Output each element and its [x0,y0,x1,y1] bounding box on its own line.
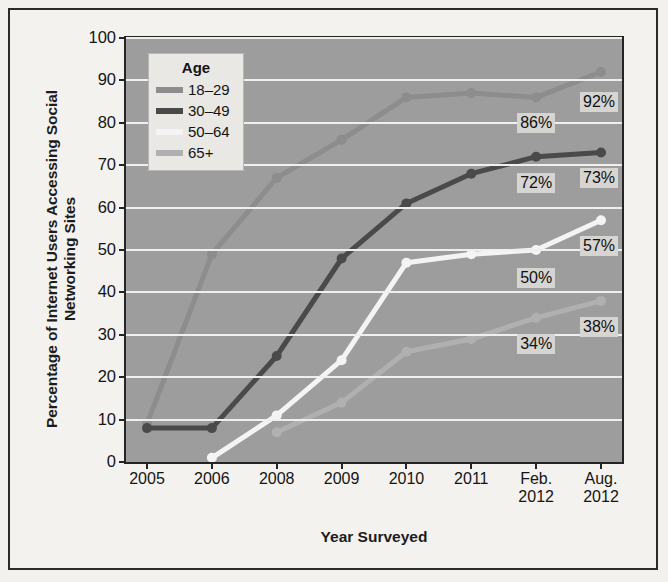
data-label: 34% [517,334,555,354]
x-axis-title: Year Surveyed [124,528,624,546]
y-tick-mark [119,37,126,39]
data-point-marker [272,351,282,361]
x-tick-label-line: Aug. [556,470,646,488]
y-tick-mark [119,122,126,124]
x-tick-label-line: 2012 [556,488,646,506]
legend-label: 50–64 [188,123,230,140]
data-point-marker [531,92,541,102]
data-label: 72% [517,173,555,193]
series-line [147,153,601,429]
data-point-marker [466,169,476,179]
x-tick-mark [146,462,148,469]
legend: Age 18–2930–4950–6465+ [148,53,244,171]
y-tick-label: 20 [70,367,116,386]
legend-item-18-29: 18–29 [156,79,236,100]
legend-swatch [156,87,183,93]
y-tick-label: 30 [70,325,116,344]
gridline [126,249,622,251]
data-point-marker [337,254,347,264]
data-point-marker [142,423,152,433]
legend-item-30-49: 30–49 [156,100,236,121]
y-tick-mark [119,419,126,421]
y-tick-label: 50 [70,240,116,259]
x-tick-mark [276,462,278,469]
legend-label: 18–29 [188,81,230,98]
data-label: 38% [580,317,618,337]
x-tick-mark [211,462,213,469]
data-point-marker [531,313,541,323]
x-tick-label: Aug.2012 [556,470,646,507]
data-point-marker [401,258,411,268]
y-tick-mark [119,291,126,293]
legend-swatch [156,108,183,114]
y-tick-mark [119,207,126,209]
y-tick-mark [119,164,126,166]
y-tick-label: 70 [70,155,116,174]
x-tick-mark [535,462,537,469]
data-label: 73% [580,168,618,188]
legend-label: 65+ [188,144,213,161]
legend-label: 30–49 [188,102,230,119]
legend-swatch [156,150,183,156]
y-tick-label: 80 [70,113,116,132]
data-point-marker [272,173,282,183]
legend-swatch [156,129,183,135]
gridline [126,376,622,378]
plot-area: 86%92%72%73%50%57%34%38% Age 18–2930–495… [124,36,624,464]
data-point-marker [207,423,217,433]
plot-inner: 86%92%72%73%50%57%34%38% Age 18–2930–495… [126,38,622,462]
line-chart-figure: Percentage of Internet Users Accessing S… [0,0,668,582]
gridline [126,419,622,421]
data-label: 50% [517,268,555,288]
series-line [277,301,601,432]
y-tick-mark [119,376,126,378]
data-point-marker [596,148,606,158]
data-point-marker [596,215,606,225]
chart-page: Percentage of Internet Users Accessing S… [0,0,668,582]
legend-item-65plus: 65+ [156,142,236,163]
data-point-marker [401,347,411,357]
data-label: 57% [580,236,618,256]
y-tick-label: 40 [70,282,116,301]
legend-item-50-64: 50–64 [156,121,236,142]
legend-title: Age [156,59,236,76]
data-point-marker [337,135,347,145]
y-tick-label: 90 [70,70,116,89]
y-tick-label: 10 [70,410,116,429]
gridline [126,37,622,39]
data-point-marker [337,355,347,365]
legend-rows: 18–2930–4950–6465+ [156,79,236,163]
data-point-marker [337,398,347,408]
gridline [126,207,622,209]
data-point-marker [401,92,411,102]
data-point-marker [466,88,476,98]
y-tick-mark [119,334,126,336]
y-tick-label: 100 [70,28,116,47]
x-tick-mark [470,462,472,469]
y-tick-mark [119,249,126,251]
data-label: 92% [580,92,618,112]
x-tick-mark [405,462,407,469]
x-tick-mark [341,462,343,469]
y-tick-label: 0 [70,452,116,471]
data-point-marker [531,152,541,162]
y-tick-mark [119,461,126,463]
gridline [126,291,622,293]
data-point-marker [596,67,606,77]
y-tick-label: 60 [70,198,116,217]
data-point-marker [596,296,606,306]
x-tick-mark [600,462,602,469]
data-label: 86% [517,113,555,133]
y-tick-mark [119,79,126,81]
data-point-marker [272,427,282,437]
